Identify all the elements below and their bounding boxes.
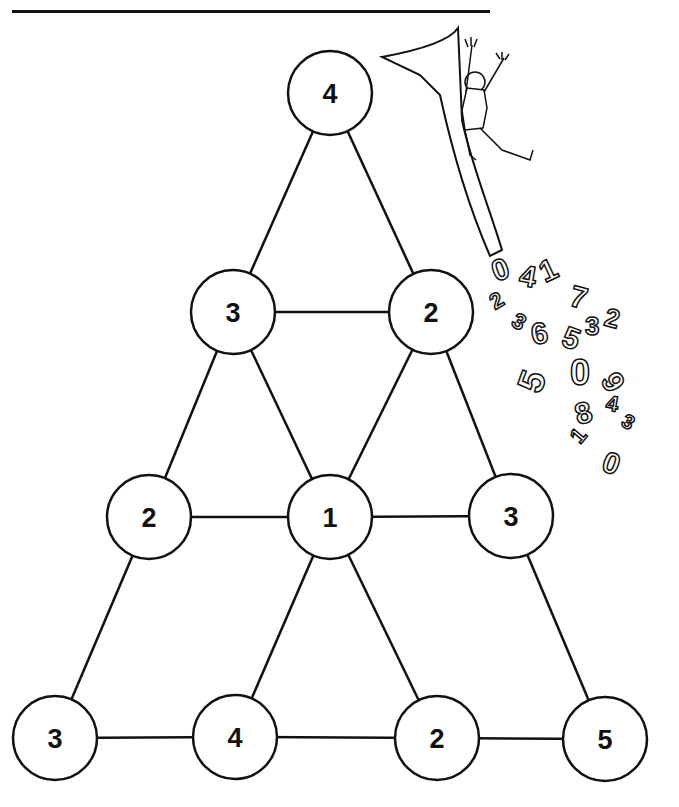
puzzle-nodes: 4322133425 xyxy=(13,51,647,781)
tumbling-digits: 0 4 1 7 2 3 6 5 3 2 0 9 5 8 4 3 1 0 xyxy=(485,251,639,481)
puzzle-node: 3 xyxy=(191,270,275,354)
puzzle-node: 3 xyxy=(13,696,97,780)
puzzle-node: 4 xyxy=(288,51,372,135)
boy-icon xyxy=(462,37,533,160)
node-value: 3 xyxy=(503,502,518,532)
giant-seven-slide xyxy=(382,28,502,256)
puzzle-node: 3 xyxy=(469,474,553,558)
puzzle-node: 2 xyxy=(107,475,191,559)
puzzle-edges xyxy=(55,93,605,739)
svg-text:3: 3 xyxy=(618,409,639,434)
svg-text:7: 7 xyxy=(566,279,591,315)
svg-text:5: 5 xyxy=(509,365,554,398)
node-value: 1 xyxy=(322,503,337,533)
node-value: 3 xyxy=(225,298,240,328)
svg-text:5: 5 xyxy=(558,320,585,357)
node-value: 2 xyxy=(141,503,156,533)
node-value: 4 xyxy=(227,723,242,753)
puzzle-node: 5 xyxy=(563,697,647,781)
puzzle-node: 1 xyxy=(288,475,372,559)
svg-text:3: 3 xyxy=(585,311,599,341)
node-value: 3 xyxy=(47,724,62,754)
worksheet-page: 0 4 1 7 2 3 6 5 3 2 0 9 5 8 4 3 1 0 4322… xyxy=(0,0,679,807)
puzzle-node: 4 xyxy=(193,695,277,779)
svg-text:3: 3 xyxy=(508,308,531,336)
svg-text:6: 6 xyxy=(528,316,550,351)
svg-text:0: 0 xyxy=(598,445,625,482)
number-triangle-puzzle: 0 4 1 7 2 3 6 5 3 2 0 9 5 8 4 3 1 0 4322… xyxy=(0,0,679,807)
node-value: 2 xyxy=(423,298,438,328)
svg-text:2: 2 xyxy=(485,287,508,315)
node-value: 5 xyxy=(597,725,612,755)
puzzle-node: 2 xyxy=(395,696,479,780)
slide-illustration: 0 4 1 7 2 3 6 5 3 2 0 9 5 8 4 3 1 0 xyxy=(382,28,639,481)
puzzle-node: 2 xyxy=(389,270,473,354)
svg-text:0: 0 xyxy=(487,251,514,288)
svg-text:2: 2 xyxy=(601,302,623,335)
node-value: 4 xyxy=(322,79,337,109)
node-value: 2 xyxy=(429,724,444,754)
svg-text:0: 0 xyxy=(570,352,590,393)
svg-text:1: 1 xyxy=(534,251,563,288)
